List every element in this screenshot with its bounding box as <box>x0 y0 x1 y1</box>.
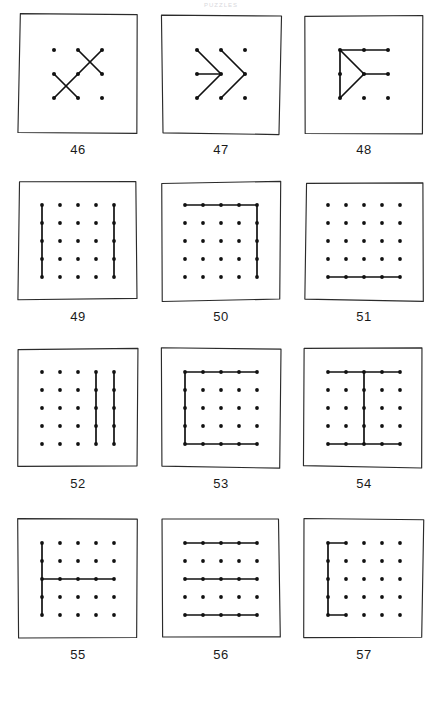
figure-cell[interactable]: 46 <box>13 12 143 159</box>
figure-frame <box>302 517 426 641</box>
figure-caption: 46 <box>70 143 85 159</box>
figure-frame <box>159 12 283 136</box>
figure-caption: 53 <box>213 477 228 493</box>
row-spacer <box>0 497 442 517</box>
figure-cell[interactable]: 54 <box>299 346 429 493</box>
figure-cell[interactable]: 55 <box>13 517 143 664</box>
figure-cell[interactable]: 51 <box>299 179 429 326</box>
figure-frame <box>302 12 426 136</box>
figure-caption: 51 <box>356 310 371 326</box>
figure-cell[interactable]: 49 <box>13 179 143 326</box>
figure-row-2: 49 50 51 <box>0 179 442 326</box>
figure-caption: 49 <box>70 310 85 326</box>
figure-cell[interactable]: 53 <box>156 346 286 493</box>
row-spacer <box>0 163 442 179</box>
figure-caption: 52 <box>70 477 85 493</box>
figure-caption: 48 <box>356 143 371 159</box>
figure-frame <box>16 12 140 136</box>
figure-caption: 54 <box>356 477 371 493</box>
figure-frame <box>16 517 140 641</box>
figure-cell[interactable]: 48 <box>299 12 429 159</box>
puzzle-plate: 46 47 48 49 50 51 52 <box>0 12 442 704</box>
figure-caption: 50 <box>213 310 228 326</box>
figure-caption: 47 <box>213 143 228 159</box>
row-spacer <box>0 330 442 346</box>
figure-cell[interactable]: 50 <box>156 179 286 326</box>
figure-caption: 55 <box>70 648 85 664</box>
figure-row-4: 55 56 57 <box>0 517 442 664</box>
figure-caption: 57 <box>356 648 371 664</box>
figure-cell[interactable]: 56 <box>156 517 286 664</box>
figure-cell[interactable]: 47 <box>156 12 286 159</box>
figure-frame <box>159 179 283 303</box>
figure-frame <box>302 346 426 470</box>
figure-frame <box>302 179 426 303</box>
page-header: PUZZLES <box>0 0 442 10</box>
figure-frame <box>159 517 283 641</box>
figure-caption: 56 <box>213 648 228 664</box>
figure-cell[interactable]: 52 <box>13 346 143 493</box>
figure-frame <box>16 179 140 303</box>
figure-row-3: 52 53 54 <box>0 346 442 493</box>
figure-frame <box>159 346 283 470</box>
figure-frame <box>16 346 140 470</box>
figure-cell[interactable]: 57 <box>299 517 429 664</box>
figure-row-1: 46 47 48 <box>0 12 442 159</box>
